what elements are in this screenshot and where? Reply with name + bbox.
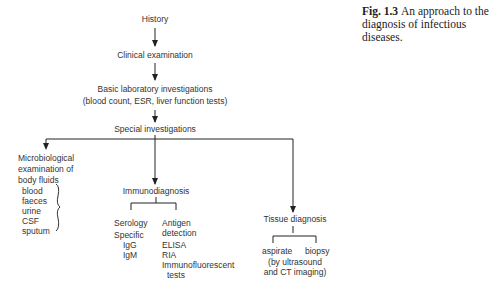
node-special-investigations: Special investigations: [114, 124, 196, 135]
serology-item: IgG: [123, 240, 137, 251]
node-micro-line1: Microbiological: [18, 153, 74, 164]
tissue-note-line2: and CT imaging): [264, 267, 327, 278]
fluid-item: blood: [22, 186, 43, 197]
tissue-biopsy: biopsy: [305, 246, 330, 257]
diagnosis-flowchart: History Clinical examination Basic labor…: [0, 0, 497, 293]
serology-specific: Specific: [114, 230, 144, 241]
antigen-item: tests: [167, 270, 185, 281]
node-antigen-line2: detection: [162, 228, 197, 239]
arrowhead-icon: [152, 74, 158, 81]
node-immunodiagnosis: Immunodiagnosis: [123, 186, 190, 197]
antigen-item: ELISA: [162, 240, 186, 251]
serology-item: IgM: [123, 250, 137, 261]
arrowhead-icon: [152, 40, 158, 47]
tissue-aspirate: aspirate: [262, 246, 292, 257]
fluid-item: urine: [22, 206, 41, 217]
arrowhead-icon: [152, 116, 158, 123]
fluid-item: faeces: [22, 196, 47, 207]
antigen-item: Immunofluorescent: [162, 260, 234, 271]
node-serology: Serology: [114, 218, 148, 229]
caption-label: Fig. 1.3: [362, 5, 398, 17]
node-basic-lab-line1: Basic laboratory investigations: [98, 84, 213, 95]
node-micro-line2: examination of: [18, 164, 73, 175]
node-basic-lab-line2: (blood count, ESR, liver function tests): [83, 96, 228, 107]
node-clinical-examination: Clinical examination: [117, 50, 193, 61]
brace-icon: [56, 184, 60, 231]
fluid-item: sputum: [22, 226, 50, 237]
arrowhead-icon: [152, 178, 158, 185]
tissue-note-line1: (by ultrasound: [268, 257, 322, 268]
node-tissue-diagnosis: Tissue diagnosis: [264, 214, 327, 225]
arrowhead-icon: [290, 206, 296, 213]
antigen-item: RIA: [162, 250, 176, 261]
node-history: History: [142, 14, 168, 25]
node-micro-line3: body fluids: [18, 175, 59, 186]
arrowhead-icon: [43, 143, 49, 150]
fluid-item: CSF: [22, 216, 39, 227]
figure-caption: Fig. 1.3 An approach to the diagnosis of…: [362, 5, 497, 44]
node-antigen-line1: Antigen: [162, 218, 191, 229]
